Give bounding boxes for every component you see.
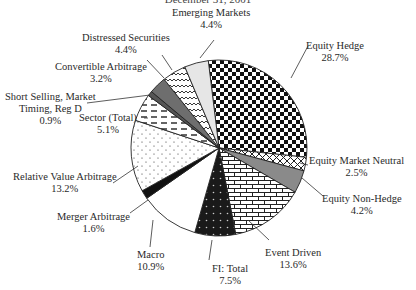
label-name: Convertible Arbitrage: [55, 61, 147, 73]
label-name: Distressed Securities: [82, 32, 170, 44]
label-name: Emerging Markets: [172, 7, 250, 19]
label-merger-arbitrage: Merger Arbitrage 1.6%: [57, 211, 130, 235]
label-pct: 5.1%: [79, 124, 137, 136]
label-name: Merger Arbitrage: [57, 211, 130, 223]
label-distressed-securities: Distressed Securities 4.4%: [82, 32, 170, 56]
pie-slice-equity-hedge: [208, 60, 307, 157]
label-name: Relative Value Arbitrage: [13, 171, 117, 183]
label-pct: 13.2%: [13, 183, 117, 195]
label-equity-hedge: Equity Hedge 28.7%: [306, 40, 364, 64]
label-name: FI: Total: [212, 263, 248, 275]
label-name: Short Selling, Market: [5, 91, 96, 103]
label-pct: 10.9%: [137, 261, 164, 273]
label-name: Macro: [137, 249, 164, 261]
label-pct: 2.5%: [309, 167, 404, 179]
label-name: Equity Market Neutral: [309, 155, 404, 167]
label-name: Sector (Total): [79, 112, 137, 124]
label-name: Equity Non-Hedge: [322, 193, 402, 205]
label-pct: 13.6%: [265, 259, 321, 271]
label-emerging-markets: Emerging Markets 4.4%: [172, 7, 250, 31]
label-relative-value-arbitrage: Relative Value Arbitrage 13.2%: [13, 171, 117, 195]
label-name: Equity Hedge: [306, 40, 364, 52]
label-pct: 7.5%: [212, 275, 248, 287]
label-equity-market-neutral: Equity Market Neutral 2.5%: [309, 155, 404, 179]
label-pct: 4.2%: [322, 205, 402, 217]
label-pct: 28.7%: [306, 52, 364, 64]
label-event-driven: Event Driven 13.6%: [265, 247, 321, 271]
pie-slices: [131, 60, 307, 236]
label-pct: 4.4%: [82, 44, 170, 56]
label-equity-non-hedge: Equity Non-Hedge 4.2%: [322, 193, 402, 217]
label-fi-total: FI: Total 7.5%: [212, 263, 248, 287]
label-macro: Macro 10.9%: [137, 249, 164, 273]
label-sector-total: Sector (Total) 5.1%: [79, 112, 137, 136]
label-pct: 3.2%: [55, 73, 147, 85]
label-pct: 4.4%: [172, 19, 250, 31]
label-pct: 1.6%: [57, 223, 130, 235]
label-convertible-arbitrage: Convertible Arbitrage 3.2%: [55, 61, 147, 85]
label-name: Event Driven: [265, 247, 321, 259]
